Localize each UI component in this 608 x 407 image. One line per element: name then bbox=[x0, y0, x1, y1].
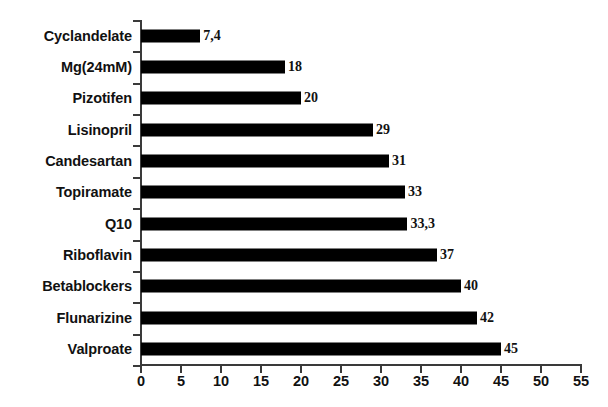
bar-row: Lisinopril29 bbox=[0, 114, 608, 145]
x-axis-tick-label: 25 bbox=[333, 373, 349, 389]
x-axis-tick bbox=[220, 366, 222, 373]
x-axis-tick bbox=[180, 366, 182, 373]
x-axis-tick bbox=[140, 366, 142, 373]
bar-row: Topiramate33 bbox=[0, 177, 608, 208]
x-axis-tick-label: 45 bbox=[493, 373, 509, 389]
bar-value-label: 37 bbox=[437, 247, 454, 263]
x-axis-tick-label: 15 bbox=[253, 373, 269, 389]
bar bbox=[141, 311, 477, 324]
x-axis-tick-label: 10 bbox=[213, 373, 229, 389]
y-axis-category-label: Riboflavin bbox=[6, 247, 132, 263]
bar-value-label: 29 bbox=[373, 122, 390, 138]
x-axis-tick-label: 55 bbox=[573, 373, 589, 389]
x-axis-tick bbox=[500, 366, 502, 373]
bar-value-label: 18 bbox=[285, 59, 302, 75]
bar-value-label: 40 bbox=[461, 278, 478, 294]
y-axis-category-label: Pizotifen bbox=[6, 90, 132, 106]
bar-value-label: 20 bbox=[301, 90, 318, 106]
figure-caption bbox=[0, 399, 608, 407]
bar bbox=[141, 29, 200, 42]
x-axis-tick-label: 40 bbox=[453, 373, 469, 389]
x-axis-tick bbox=[300, 366, 302, 373]
y-axis-category-label: Lisinopril bbox=[6, 122, 132, 138]
y-axis-category-label: Topiramate bbox=[6, 184, 132, 200]
y-axis-category-label: Flunarizine bbox=[6, 310, 132, 326]
bar-row: Betablockers40 bbox=[0, 271, 608, 302]
bar-row: Mg(24mM)18 bbox=[0, 51, 608, 82]
y-axis-category-label: Candesartan bbox=[6, 153, 132, 169]
x-axis-tick-label: 0 bbox=[137, 373, 145, 389]
x-axis-tick bbox=[580, 366, 582, 373]
x-axis-tick-label: 5 bbox=[177, 373, 185, 389]
x-axis-tick bbox=[380, 366, 382, 373]
bar bbox=[141, 123, 373, 136]
y-axis-category-label: Valproate bbox=[6, 341, 132, 357]
bar bbox=[141, 217, 407, 230]
x-axis-tick bbox=[260, 366, 262, 373]
bar-value-label: 33,3 bbox=[407, 216, 435, 232]
bar bbox=[141, 154, 389, 167]
y-axis-category-label: Mg(24mM) bbox=[6, 59, 132, 75]
bar-chart: Cyclandelate7,4Mg(24mM)18Pizotifen20Lisi… bbox=[0, 0, 608, 407]
x-axis-tick bbox=[540, 366, 542, 373]
x-axis-tick bbox=[460, 366, 462, 373]
x-axis-tick bbox=[420, 366, 422, 373]
bar bbox=[141, 92, 301, 105]
bar-row: Flunarizine42 bbox=[0, 302, 608, 333]
bar-row: Candesartan31 bbox=[0, 145, 608, 176]
x-axis-tick-label: 20 bbox=[293, 373, 309, 389]
x-axis-tick-label: 35 bbox=[413, 373, 429, 389]
bar bbox=[141, 343, 501, 356]
bar-value-label: 45 bbox=[501, 341, 518, 357]
bar-row: Riboflavin37 bbox=[0, 240, 608, 271]
x-axis-tick-label: 30 bbox=[373, 373, 389, 389]
bar bbox=[141, 60, 285, 73]
bar-row: Pizotifen20 bbox=[0, 83, 608, 114]
y-axis-category-label: Cyclandelate bbox=[6, 28, 132, 44]
bar-row: Cyclandelate7,4 bbox=[0, 20, 608, 51]
x-axis-tick bbox=[340, 366, 342, 373]
x-axis-tick-label: 50 bbox=[533, 373, 549, 389]
bar bbox=[141, 280, 461, 293]
y-axis-category-label: Q10 bbox=[6, 216, 132, 232]
bar-value-label: 7,4 bbox=[200, 28, 221, 44]
bar bbox=[141, 186, 405, 199]
bar bbox=[141, 249, 437, 262]
y-axis-category-label: Betablockers bbox=[6, 278, 132, 294]
bar-row: Q1033,3 bbox=[0, 208, 608, 239]
bar-value-label: 42 bbox=[477, 310, 494, 326]
bar-row: Valproate45 bbox=[0, 334, 608, 365]
bar-value-label: 31 bbox=[389, 153, 406, 169]
bar-value-label: 33 bbox=[405, 184, 422, 200]
